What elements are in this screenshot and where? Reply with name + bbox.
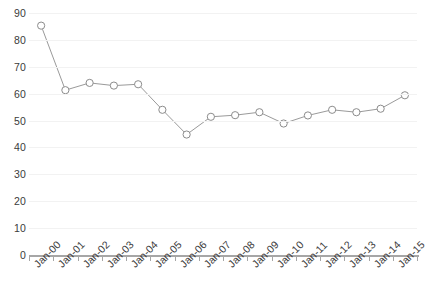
gridline bbox=[29, 201, 417, 202]
data-point-marker[interactable] bbox=[110, 82, 117, 89]
data-point-marker[interactable] bbox=[256, 109, 263, 116]
x-tick-mark bbox=[199, 256, 200, 261]
line-chart: 0102030405060708090 Jan-00Jan-01Jan-02Ja… bbox=[0, 0, 425, 306]
y-tick-label: 90 bbox=[2, 8, 26, 19]
data-point-marker[interactable] bbox=[135, 81, 142, 88]
gridline bbox=[29, 147, 417, 148]
y-axis: 0102030405060708090 bbox=[0, 0, 26, 306]
data-point-marker[interactable] bbox=[38, 22, 45, 29]
x-axis-line bbox=[29, 255, 419, 257]
gridline bbox=[29, 40, 417, 41]
data-point-marker[interactable] bbox=[159, 106, 166, 113]
x-tick-mark bbox=[344, 256, 345, 261]
x-tick-mark bbox=[29, 256, 30, 261]
data-point-marker[interactable] bbox=[232, 112, 239, 119]
x-tick-mark bbox=[247, 256, 248, 261]
x-tick-mark bbox=[175, 256, 176, 261]
gridline bbox=[29, 94, 417, 95]
gridline bbox=[29, 67, 417, 68]
data-point-marker[interactable] bbox=[304, 112, 311, 119]
y-tick-label: 50 bbox=[2, 115, 26, 126]
x-tick-mark bbox=[102, 256, 103, 261]
x-tick-mark bbox=[393, 256, 394, 261]
x-tick-mark bbox=[150, 256, 151, 261]
data-point-marker[interactable] bbox=[353, 109, 360, 116]
y-tick-label: 0 bbox=[2, 250, 26, 261]
plot-area bbox=[29, 13, 417, 255]
data-point-marker[interactable] bbox=[377, 105, 384, 112]
x-tick-mark bbox=[223, 256, 224, 261]
y-tick-label: 30 bbox=[2, 169, 26, 180]
y-tick-label: 40 bbox=[2, 142, 26, 153]
series-line bbox=[41, 26, 405, 135]
data-point-marker[interactable] bbox=[86, 79, 93, 86]
x-tick-mark bbox=[369, 256, 370, 261]
x-tick-mark bbox=[417, 256, 418, 261]
x-tick-mark bbox=[272, 256, 273, 261]
gridline bbox=[29, 13, 417, 14]
gridline bbox=[29, 228, 417, 229]
gridline bbox=[29, 174, 417, 175]
x-tick-mark bbox=[78, 256, 79, 261]
x-tick-mark bbox=[126, 256, 127, 261]
y-tick-label: 80 bbox=[2, 35, 26, 46]
x-tick-mark bbox=[53, 256, 54, 261]
x-tick-mark bbox=[296, 256, 297, 261]
data-point-marker[interactable] bbox=[329, 106, 336, 113]
data-point-marker[interactable] bbox=[183, 131, 190, 138]
y-tick-label: 70 bbox=[2, 62, 26, 73]
gridline bbox=[29, 121, 417, 122]
y-tick-label: 60 bbox=[2, 88, 26, 99]
x-tick-mark bbox=[320, 256, 321, 261]
series-line-group bbox=[29, 13, 417, 255]
y-tick-label: 10 bbox=[2, 223, 26, 234]
y-tick-label: 20 bbox=[2, 196, 26, 207]
data-point-marker[interactable] bbox=[207, 113, 214, 120]
